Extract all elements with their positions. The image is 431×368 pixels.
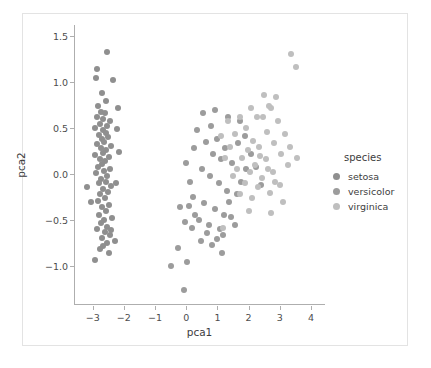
data-point-virginica xyxy=(247,169,253,175)
data-point-virginica xyxy=(254,114,260,120)
data-point-versicolor xyxy=(235,140,241,146)
data-point-virginica xyxy=(270,169,276,175)
data-point-versicolor xyxy=(184,259,190,265)
data-point-versicolor xyxy=(196,217,202,223)
y-tick-label: 0.0 xyxy=(38,169,68,180)
y-tick-label: −0.5 xyxy=(38,215,68,226)
x-tick-mark xyxy=(155,306,156,310)
data-point-virginica xyxy=(257,153,263,159)
data-point-versicolor xyxy=(242,133,248,139)
data-point-versicolor xyxy=(221,212,227,218)
legend-item-setosa[interactable]: setosa xyxy=(333,169,413,184)
data-point-setosa xyxy=(97,246,103,252)
data-point-setosa xyxy=(105,189,111,195)
y-tick-label: 1.5 xyxy=(38,31,68,42)
data-point-setosa xyxy=(108,227,114,233)
data-point-virginica xyxy=(285,162,291,168)
data-point-setosa xyxy=(106,250,112,256)
data-point-versicolor xyxy=(219,250,225,256)
data-point-versicolor xyxy=(212,107,218,113)
data-point-virginica xyxy=(280,199,286,205)
data-point-setosa xyxy=(93,75,99,81)
legend-item-versicolor[interactable]: versicolor xyxy=(333,184,413,199)
data-point-versicolor xyxy=(201,200,207,206)
data-point-versicolor xyxy=(203,139,209,145)
x-tick-mark xyxy=(93,306,94,310)
data-point-versicolor xyxy=(198,238,204,244)
data-point-virginica xyxy=(222,155,228,161)
data-point-virginica xyxy=(218,133,224,139)
data-point-virginica xyxy=(259,175,265,181)
data-point-virginica xyxy=(268,210,274,216)
y-tick-mark xyxy=(70,174,74,175)
data-point-setosa xyxy=(109,215,115,221)
data-point-setosa xyxy=(107,166,113,172)
data-point-setosa xyxy=(94,226,100,232)
data-point-setosa xyxy=(115,105,121,111)
data-point-versicolor xyxy=(220,232,226,238)
data-point-setosa xyxy=(84,184,90,190)
data-point-setosa xyxy=(114,126,120,132)
legend-entries: setosaversicolorvirginica xyxy=(333,169,413,214)
x-tick-label: −2 xyxy=(117,312,131,323)
data-point-setosa xyxy=(106,202,112,208)
data-point-versicolor xyxy=(186,203,192,209)
x-tick-mark xyxy=(217,306,218,310)
x-tick-label: 0 xyxy=(183,312,189,323)
data-point-virginica xyxy=(256,144,262,150)
data-point-versicolor xyxy=(191,145,197,151)
plot-axes xyxy=(74,25,325,305)
data-point-virginica xyxy=(249,195,255,201)
data-point-setosa xyxy=(92,257,98,263)
data-point-versicolor xyxy=(210,151,216,157)
data-point-virginica xyxy=(232,131,238,137)
data-point-virginica xyxy=(250,138,256,144)
legend-item-virginica[interactable]: virginica xyxy=(333,199,413,214)
data-point-versicolor xyxy=(207,173,213,179)
data-point-setosa xyxy=(95,164,101,170)
data-point-versicolor xyxy=(168,263,174,269)
legend-title: species xyxy=(344,152,413,163)
data-point-virginica xyxy=(245,147,251,153)
data-point-virginica xyxy=(246,208,252,214)
data-point-versicolor xyxy=(194,127,200,133)
data-point-setosa xyxy=(103,98,109,104)
data-point-versicolor xyxy=(209,242,215,248)
data-point-versicolor xyxy=(190,194,196,200)
data-point-virginica xyxy=(265,166,271,172)
data-point-virginica xyxy=(242,180,248,186)
y-tick-mark xyxy=(70,266,74,267)
data-point-versicolor xyxy=(229,160,235,166)
data-point-setosa xyxy=(110,77,116,83)
data-point-versicolor xyxy=(212,206,218,212)
x-tick-mark xyxy=(311,306,312,310)
data-point-versicolor xyxy=(226,199,232,205)
legend-marker-icon xyxy=(333,203,340,210)
x-axis-label: pca1 xyxy=(74,326,325,338)
data-point-setosa xyxy=(92,125,98,131)
data-point-virginica xyxy=(275,118,281,124)
legend-marker-icon xyxy=(333,173,340,180)
data-point-virginica xyxy=(294,155,300,161)
scatter-plot-area xyxy=(75,25,325,304)
data-point-versicolor xyxy=(224,188,230,194)
data-point-setosa xyxy=(96,212,102,218)
data-point-versicolor xyxy=(208,123,214,129)
data-point-virginica xyxy=(239,155,245,161)
y-axis-label: pca2 xyxy=(15,152,27,178)
data-point-versicolor xyxy=(214,236,220,242)
x-tick-label: 1 xyxy=(214,312,220,323)
y-tick-label: 0.5 xyxy=(38,123,68,134)
x-tick-label: 2 xyxy=(246,312,252,323)
data-point-virginica xyxy=(272,179,278,185)
x-tick-label: −3 xyxy=(86,312,100,323)
data-point-virginica xyxy=(264,129,270,135)
x-tick-label: 3 xyxy=(277,312,283,323)
legend-marker-icon xyxy=(333,188,340,195)
data-point-versicolor xyxy=(199,166,205,172)
legend: species setosaversicolorvirginica xyxy=(333,152,413,214)
data-point-setosa xyxy=(94,66,100,72)
data-point-setosa xyxy=(102,195,108,201)
data-point-setosa xyxy=(98,220,104,226)
data-point-versicolor xyxy=(200,110,206,116)
